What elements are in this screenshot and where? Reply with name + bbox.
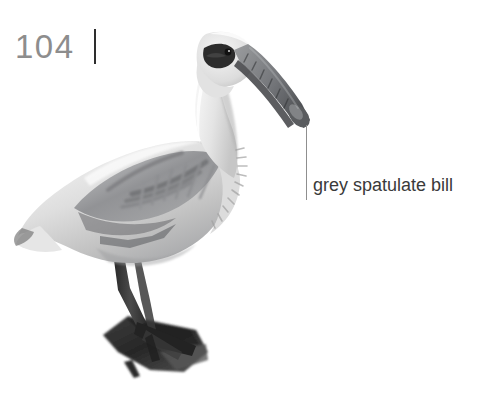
spoonbill-photograph [0,0,501,402]
page-canvas: 104 [0,0,501,402]
eye [225,49,232,56]
annotation-label-grey-spatulate-bill: grey spatulate bill [313,176,453,194]
annotation-leader-line [306,125,307,200]
bird-body [14,141,238,266]
spoonbill-illustration [0,0,501,402]
eye-catchlight [228,50,230,52]
spatulate-bill [234,44,314,131]
